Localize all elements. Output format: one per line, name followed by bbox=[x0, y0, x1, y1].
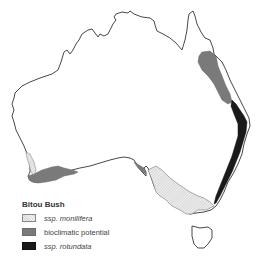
legend-item-monilifera: ssp. monilifera bbox=[22, 212, 109, 224]
map-legend: Bitou Bush ssp. monilifera bioclimatic p… bbox=[22, 200, 109, 254]
tasmania-outline bbox=[192, 226, 212, 248]
legend-item-bioclimatic: bioclimatic potential bbox=[22, 226, 109, 238]
legend-title: Bitou Bush bbox=[22, 200, 109, 209]
legend-label: ssp. rotundata bbox=[44, 242, 92, 251]
grey-swatch-icon bbox=[22, 228, 36, 236]
black-swatch-icon bbox=[22, 242, 36, 250]
legend-item-rotundata: ssp. rotundata bbox=[22, 240, 109, 252]
hatched-swatch-icon bbox=[22, 214, 36, 222]
legend-label: bioclimatic potential bbox=[44, 228, 109, 237]
mainland-outline bbox=[12, 11, 250, 214]
legend-label: ssp. monilifera bbox=[44, 214, 92, 223]
